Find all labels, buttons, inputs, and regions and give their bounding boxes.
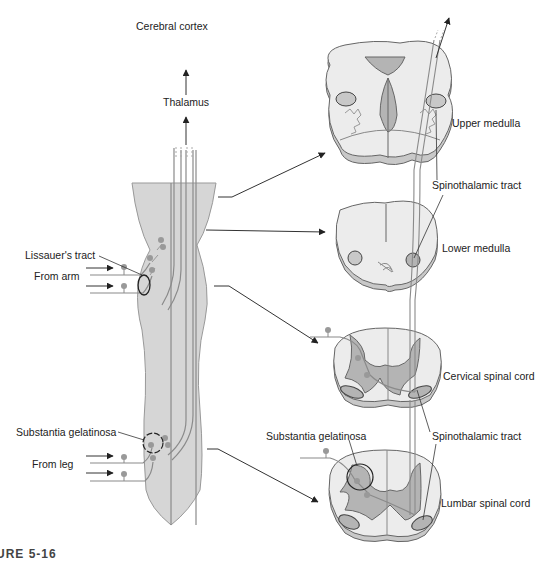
label-lower-medulla: Lower medulla [442,243,510,254]
label-from-arm: From arm [34,271,80,282]
section-lower-medulla [336,201,438,291]
label-upper-medulla: Upper medulla [452,118,520,129]
label-cervical-spinal-cord: Cervical spinal cord [443,371,535,382]
label-lumbar-spinal-cord: Lumbar spinal cord [441,498,530,509]
label-thalamus: Thalamus [163,97,209,108]
label-substantia-gelatinosa-left: Substantia gelatinosa [16,427,116,438]
label-substantia-gelatinosa-right: Substantia gelatinosa [266,431,366,442]
section-lumbar-spinal-cord [300,440,441,542]
diagram-canvas [0,0,550,562]
label-spinothalamic-tract-upper: Spinothalamic tract [432,180,521,191]
label-lissauers-tract: Lissauer's tract [25,250,95,261]
label-spinothalamic-tract-lower: Spinothalamic tract [432,431,521,442]
figure-number: URE 5-16 [0,547,57,561]
section-upper-medulla [326,41,453,165]
section-pointer-arrows [206,153,325,502]
label-cerebral-cortex: Cerebral cortex [136,21,208,32]
label-from-leg: From leg [32,459,73,470]
section-cervical-spinal-cord [310,327,441,408]
figure-caption: URE 5-16 [0,547,57,561]
spinal-cord-column [132,147,216,525]
